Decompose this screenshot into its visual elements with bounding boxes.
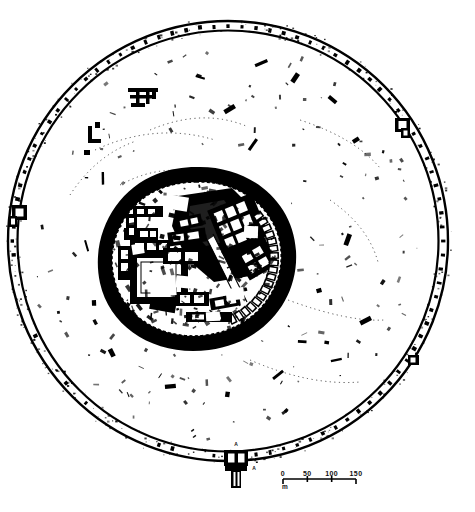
rampart-erosion-fleck — [185, 30, 186, 31]
rampart-erosion-fleck — [430, 152, 432, 153]
rampart-erosion-fleck — [41, 141, 42, 142]
rampart-erosion-fleck — [376, 81, 377, 82]
rampart-erosion-fleck — [10, 251, 12, 252]
rampart-erosion-fleck — [275, 451, 276, 452]
ruin-fleck — [205, 379, 208, 386]
ruin-wall-fragment-18 — [225, 391, 230, 397]
rampart-erosion-fleck — [437, 179, 438, 180]
rampart-erosion-fleck — [96, 416, 97, 417]
ruin-fleck — [389, 159, 392, 163]
rampart-erosion-fleck — [64, 372, 66, 373]
rampart-erosion-fleck — [421, 327, 424, 329]
rampart-erosion-fleck — [365, 66, 366, 67]
rampart-erosion-fleck — [384, 384, 385, 385]
rampart-erosion-fleck — [144, 438, 146, 440]
rampart-erosion-fleck — [363, 78, 364, 79]
rampart-tower — [198, 25, 202, 30]
rampart-erosion-fleck — [188, 453, 190, 454]
rampart-erosion-fleck — [438, 288, 440, 290]
rampart-erosion-fleck — [280, 28, 282, 29]
rampart-erosion-fleck — [251, 457, 252, 458]
ruin-fleck — [292, 144, 295, 147]
rampart-erosion-fleck — [18, 188, 20, 190]
rampart-erosion-fleck — [171, 442, 172, 443]
rampart-erosion-fleck — [12, 241, 13, 242]
citadel-courtyard-void-5 — [206, 312, 220, 322]
scale-bar-label-0: 0 — [281, 470, 285, 477]
rampart-erosion-fleck — [35, 156, 36, 157]
rampart-erosion-fleck — [286, 37, 288, 38]
ruin-wall-fragment-11 — [92, 300, 96, 306]
rampart-erosion-fleck — [390, 384, 391, 385]
rampart-erosion-fleck — [62, 391, 64, 392]
rampart-erosion-fleck — [74, 93, 75, 94]
rampart-erosion-fleck — [387, 89, 389, 90]
rampart-erosion-fleck — [138, 52, 140, 53]
rampart-erosion-fleck — [324, 39, 326, 40]
rampart-erosion-fleck — [301, 42, 302, 43]
rampart-erosion-fleck — [266, 29, 268, 31]
citadel-rubble-fleck — [232, 194, 237, 199]
rampart-erosion-fleck — [90, 74, 92, 75]
rampart-erosion-fleck — [45, 367, 46, 368]
rampart-erosion-fleck — [146, 442, 147, 443]
citadel-rubble-fleck — [145, 290, 148, 298]
rampart-erosion-fleck — [438, 221, 440, 223]
rampart-erosion-fleck — [116, 65, 118, 67]
rampart-erosion-fleck — [446, 262, 447, 263]
rampart-erosion-fleck — [187, 34, 189, 36]
rampart-erosion-fleck — [328, 432, 329, 433]
rampart-erosion-fleck — [87, 68, 88, 69]
rampart-erosion-fleck — [445, 190, 447, 192]
rampart-erosion-fleck — [331, 57, 332, 58]
ruin-wall-j — [84, 150, 90, 155]
rampart-erosion-fleck — [112, 420, 113, 421]
rampart-erosion-fleck — [198, 32, 199, 33]
rampart-erosion-fleck — [12, 289, 14, 290]
rampart-erosion-fleck — [366, 411, 368, 413]
rampart-erosion-fleck — [193, 452, 195, 453]
rampart-erosion-fleck — [98, 70, 99, 71]
rampart-erosion-fleck — [112, 54, 114, 56]
rampart-erosion-fleck — [95, 421, 96, 422]
rampart-erosion-fleck — [149, 48, 150, 49]
rampart-erosion-fleck — [42, 363, 43, 364]
rampart-erosion-fleck — [139, 431, 140, 432]
rampart-erosion-fleck — [273, 35, 274, 36]
rampart-erosion-fleck — [316, 37, 317, 38]
ruin-fleck — [416, 248, 417, 249]
rampart-erosion-fleck — [145, 44, 146, 45]
ruin-wall-f — [152, 90, 156, 99]
rampart-erosion-fleck — [188, 21, 190, 23]
rampart-erosion-fleck — [326, 436, 327, 437]
rampart-erosion-fleck — [405, 371, 406, 372]
rampart-erosion-fleck — [427, 304, 429, 306]
rampart-erosion-fleck — [254, 460, 256, 461]
rampart-erosion-fleck — [438, 164, 440, 166]
rampart-erosion-fleck — [93, 408, 94, 409]
rampart-erosion-fleck — [346, 414, 348, 415]
rampart-erosion-fleck — [26, 166, 28, 168]
rampart-erosion-fleck — [196, 25, 197, 26]
rampart-erosion-fleck — [176, 453, 178, 454]
rampart-erosion-fleck — [415, 353, 417, 354]
rampart-erosion-fleck — [118, 54, 119, 55]
ruin-fleck — [347, 353, 348, 358]
rampart-erosion-fleck — [204, 449, 206, 451]
rampart-erosion-fleck — [265, 33, 267, 35]
rampart-erosion-fleck — [435, 276, 437, 278]
rampart-erosion-fleck — [85, 393, 86, 394]
rampart-erosion-fleck — [73, 393, 75, 395]
rampart-erosion-fleck — [399, 384, 401, 385]
rampart-erosion-fleck — [25, 296, 27, 297]
rampart-erosion-fleck — [107, 421, 110, 423]
citadel-rubble-fleck — [184, 239, 187, 243]
ruin-fleck — [57, 311, 60, 314]
rampart-erosion-fleck — [268, 28, 269, 29]
ruin-fleck — [317, 273, 319, 274]
nw-range-west-wing — [126, 214, 137, 240]
rampart-erosion-fleck — [9, 206, 11, 208]
rampart-erosion-fleck — [313, 438, 314, 439]
rampart-erosion-fleck — [15, 272, 16, 273]
rampart-erosion-fleck — [18, 182, 19, 183]
